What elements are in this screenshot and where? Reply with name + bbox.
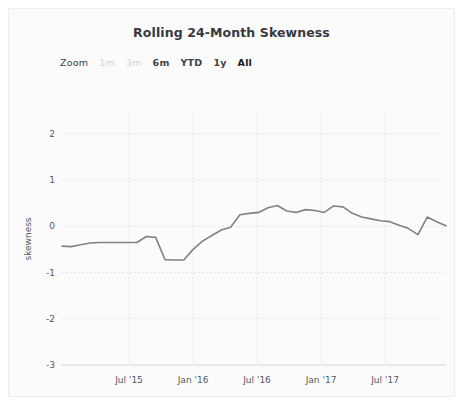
svg-text:Jul '17: Jul '17 [370,375,399,385]
svg-text:Jan '17: Jan '17 [305,375,337,385]
svg-text:1: 1 [49,175,55,185]
svg-text:Jan '16: Jan '16 [177,375,209,385]
y-axis-tick-labels: 210-1-2-3 [46,129,55,370]
chart-card: Rolling 24-Month Skewness Zoom 1m 3m 6m … [8,8,455,397]
skewness-line-chart: 210-1-2-3 Jul '15Jan '16Jul '16Jan '17Ju… [9,9,456,398]
svg-text:Jul '15: Jul '15 [114,375,143,385]
svg-text:-3: -3 [46,360,55,370]
svg-text:-2: -2 [46,314,55,324]
x-axis-tick-labels: Jul '15Jan '16Jul '16Jan '17Jul '17 [114,375,399,385]
y-axis-title: skewness [23,217,33,260]
horizontal-gridlines [62,134,446,365]
svg-text:0: 0 [49,221,55,231]
plot-area: 210-1-2-3 Jul '15Jan '16Jul '16Jan '17Ju… [9,9,456,398]
svg-text:Jul '16: Jul '16 [242,375,271,385]
vertical-gridlines [129,113,385,365]
svg-text:-1: -1 [46,268,55,278]
svg-text:2: 2 [49,129,55,139]
data-series-line [62,205,446,260]
